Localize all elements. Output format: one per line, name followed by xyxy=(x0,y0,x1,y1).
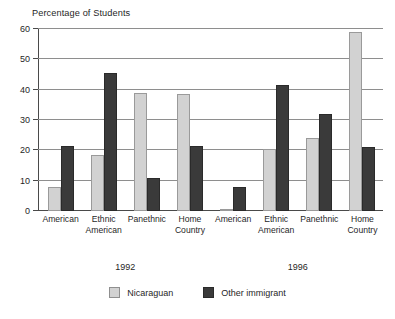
x-axis-label-line: Home xyxy=(168,214,211,225)
legend-item[interactable]: Nicaraguan xyxy=(109,287,173,298)
x-axis-category-labels: AmericanEthnicAmericanPanethnicHomeCount… xyxy=(39,214,384,236)
bar xyxy=(362,147,375,211)
x-axis-label-line: Ethnic xyxy=(255,214,298,225)
bar-groups xyxy=(39,29,383,211)
x-axis-label-line: American xyxy=(39,214,82,225)
x-axis-label: American xyxy=(212,214,255,236)
bar-group xyxy=(254,29,297,211)
bar-group xyxy=(340,29,383,211)
y-tick-label-50: 50 xyxy=(20,54,30,64)
bar xyxy=(134,93,147,211)
x-axis-label-line: Panethnic xyxy=(298,214,341,225)
y-axis-title: Percentage of Students xyxy=(32,8,130,18)
y-tick-label-10: 10 xyxy=(20,176,30,186)
legend-label: Nicaraguan xyxy=(127,288,173,298)
y-tick-40 xyxy=(33,89,38,90)
x-axis-label: EthnicAmerican xyxy=(255,214,298,236)
x-axis-label: HomeCountry xyxy=(341,214,384,236)
x-axis-label: American xyxy=(39,214,82,236)
bar-group xyxy=(125,29,168,211)
bar xyxy=(319,114,332,211)
bar xyxy=(48,187,61,211)
dark-gray-swatch xyxy=(203,287,214,298)
bar-group xyxy=(211,29,254,211)
bar xyxy=(220,209,233,211)
y-tick-30 xyxy=(33,119,38,120)
x-axis-label: HomeCountry xyxy=(168,214,211,236)
y-tick-10 xyxy=(33,180,38,181)
x-axis-label-line: Ethnic xyxy=(82,214,125,225)
x-axis-year-labels: 19921996 xyxy=(39,262,384,272)
bar xyxy=(349,32,362,211)
y-tick-60 xyxy=(33,28,38,29)
chart-legend: NicaraguanOther immigrant xyxy=(0,287,395,298)
bar-group xyxy=(39,29,82,211)
x-axis-label-line: American xyxy=(212,214,255,225)
y-tick-50 xyxy=(33,58,38,59)
x-axis-label-line: American xyxy=(82,225,125,236)
x-axis-label-line: Home xyxy=(341,214,384,225)
y-tick-20 xyxy=(33,149,38,150)
year-label-1992: 1992 xyxy=(39,262,212,272)
y-tick-label-30: 30 xyxy=(20,115,30,125)
x-axis-label-line: Panethnic xyxy=(125,214,168,225)
y-tick-label-60: 60 xyxy=(20,24,30,34)
plot-area: 0102030405060 xyxy=(38,29,383,211)
bar xyxy=(276,85,289,211)
x-axis-label: EthnicAmerican xyxy=(82,214,125,236)
bar xyxy=(91,155,104,211)
bar xyxy=(233,187,246,211)
bar xyxy=(263,149,276,211)
bar xyxy=(147,178,160,211)
bar-group xyxy=(82,29,125,211)
bar xyxy=(306,138,319,211)
x-axis-label-line: American xyxy=(255,225,298,236)
bar-chart-figure: Percentage of Students 0102030405060 Ame… xyxy=(0,0,395,319)
x-axis-label: Panethnic xyxy=(125,214,168,236)
bar xyxy=(177,94,190,211)
legend-label: Other immigrant xyxy=(221,288,286,298)
x-axis-label: Panethnic xyxy=(298,214,341,236)
y-tick-label-20: 20 xyxy=(20,145,30,155)
bar xyxy=(61,146,74,211)
light-gray-swatch xyxy=(109,287,120,298)
x-axis-label-line: Country xyxy=(168,225,211,236)
bar-group xyxy=(168,29,211,211)
y-tick-label-0: 0 xyxy=(25,206,30,216)
year-label-1996: 1996 xyxy=(212,262,385,272)
x-axis-label-line: Country xyxy=(341,225,384,236)
bar xyxy=(104,73,117,211)
bar xyxy=(190,146,203,211)
y-tick-label-40: 40 xyxy=(20,85,30,95)
y-tick-0 xyxy=(33,210,38,211)
legend-item[interactable]: Other immigrant xyxy=(203,287,286,298)
bar-group xyxy=(297,29,340,211)
